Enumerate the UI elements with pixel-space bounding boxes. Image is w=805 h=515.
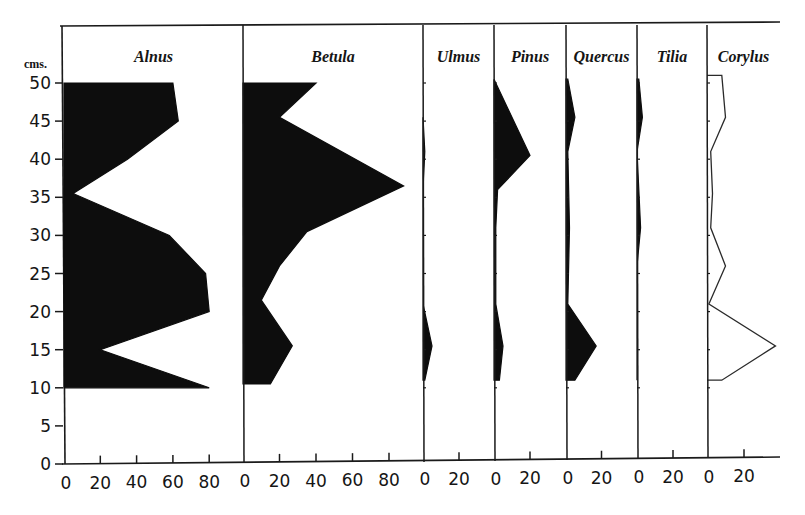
y-tick-label: 45 [29, 111, 51, 131]
taxa-panels: Alnus020406080Betula020406080Ulmus020Pin… [61, 25, 776, 493]
x-tick-label: 0 [491, 469, 502, 489]
x-tick-label: 60 [162, 472, 184, 492]
x-tick-label: 20 [591, 468, 613, 488]
y-tick-label: 35 [29, 187, 51, 207]
top-border [60, 22, 780, 26]
x-tick-label: 20 [733, 466, 755, 486]
pollen-curve-filled [243, 83, 404, 384]
panel-alnus: Alnus020406080 [61, 48, 220, 493]
y-tick-label: 30 [29, 225, 51, 245]
y-axis-unit-label: cms. [24, 57, 47, 71]
pollen-diagram: cms.05101520253035404550 Alnus020406080B… [0, 0, 805, 515]
bottom-axis-line [62, 457, 780, 464]
x-tick-label: 20 [89, 473, 111, 493]
y-axis: cms.05101520253035404550 [24, 26, 65, 474]
panel-ulmus: Ulmus020 [420, 25, 481, 489]
panel-baseline [494, 25, 495, 461]
panel-title: Tilia [657, 48, 688, 65]
y-tick-label: 5 [40, 416, 51, 436]
y-tick-label: 50 [29, 73, 51, 93]
panel-title: Quercus [573, 48, 629, 65]
x-tick-label: 0 [704, 467, 715, 487]
x-tick-label: 80 [198, 472, 220, 492]
x-tick-label: 0 [563, 468, 574, 488]
panel-title: Ulmus [437, 48, 481, 65]
panel-title: Pinus [510, 48, 549, 65]
pollen-curve-filled [566, 79, 596, 380]
y-tick-label: 40 [29, 149, 51, 169]
panel-title: Corylus [718, 48, 770, 66]
x-tick-label: 80 [378, 470, 400, 490]
panel-tilia: Tilia020 [634, 25, 688, 487]
x-tick-label: 0 [240, 471, 251, 491]
panel-baseline [243, 25, 244, 463]
x-tick-label: 20 [448, 469, 470, 489]
x-tick-label: 20 [662, 467, 684, 487]
y-tick-label: 15 [29, 340, 51, 360]
panel-baseline [423, 25, 424, 462]
pollen-curve-filled [64, 83, 209, 388]
x-tick-label: 60 [342, 470, 364, 490]
x-tick-label: 20 [519, 468, 541, 488]
y-tick-label: 25 [29, 264, 51, 284]
x-tick-label: 0 [61, 473, 72, 493]
x-tick-label: 0 [634, 467, 645, 487]
pollen-curve-filled [494, 79, 530, 380]
panel-title: Alnus [133, 48, 173, 65]
x-tick-label: 20 [269, 471, 291, 491]
y-tick-label: 0 [40, 454, 51, 474]
panel-baseline [637, 25, 638, 459]
x-tick-label: 40 [305, 471, 327, 491]
y-tick-label: 20 [29, 302, 51, 322]
panel-title: Betula [310, 48, 355, 65]
panel-baseline [707, 25, 708, 458]
panel-baseline [566, 25, 567, 460]
x-tick-label: 40 [126, 472, 148, 492]
panel-betula: Betula020406080 [240, 25, 404, 491]
panel-quercus: Quercus020 [563, 25, 630, 488]
pollen-curve-outline [707, 75, 776, 380]
panel-corylus: Corylus020 [704, 25, 776, 487]
panel-pinus: Pinus020 [491, 25, 550, 489]
x-tick-label: 0 [420, 469, 431, 489]
y-tick-label: 10 [29, 378, 51, 398]
